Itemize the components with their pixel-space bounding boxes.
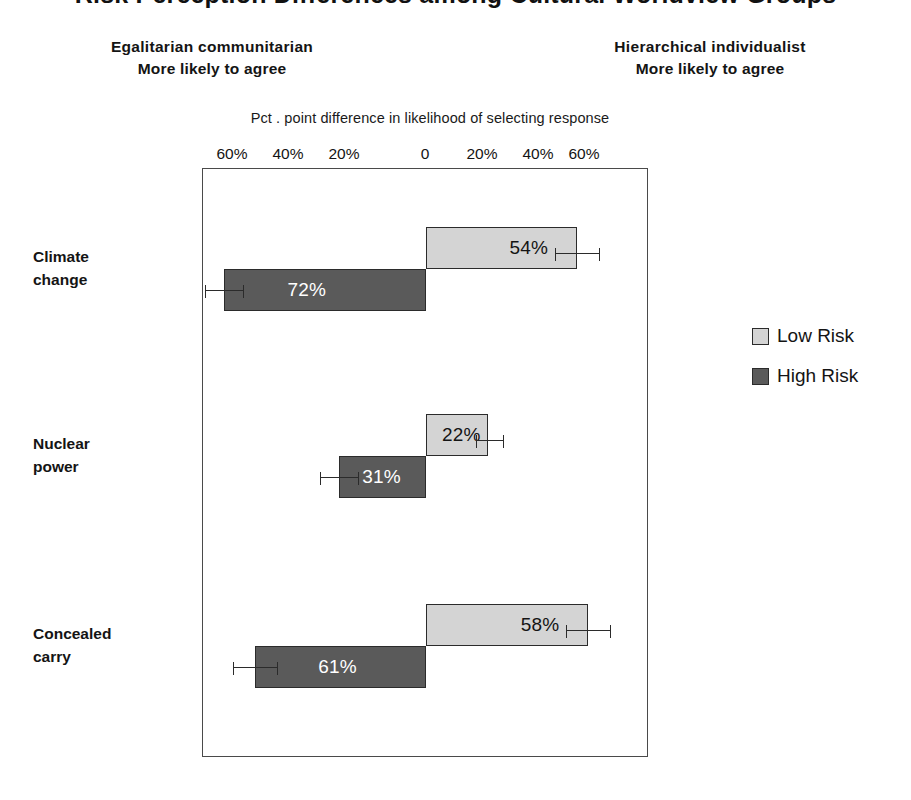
error-bar-high-risk-2 [320,477,359,478]
error-cap-left [320,472,321,485]
error-cap-left [205,285,206,298]
error-bar-low-risk-1 [555,253,600,254]
bar-value-label: 58% [521,614,560,636]
right-pole-line2: More likely to agree [520,58,900,80]
error-cap-left [566,625,567,638]
legend-swatch-icon [752,368,769,385]
x-tick-label-0: 60% [216,145,247,163]
x-tick-label-1: 40% [272,145,303,163]
error-cap-left [476,435,477,448]
x-tick-label-5: 40% [522,145,553,163]
chart-title-text: Risk Perception Differences among Cultur… [0,0,911,9]
legend-item-low-risk[interactable]: Low Risk [752,316,902,356]
category-label-line2: power [33,455,198,478]
bar-high-risk-1: 72% [224,269,426,311]
error-bar-low-risk-2 [476,440,504,441]
bar-value-label: 61% [318,656,357,678]
error-cap-right [599,248,600,261]
error-bar-high-risk-1 [205,290,244,291]
error-cap-right [243,285,244,298]
bar-value-label: 22% [442,424,481,446]
bar-low-risk-3: 58% [426,604,588,646]
category-label-2: Nuclearpower [33,432,198,478]
error-bar-low-risk-3 [566,630,611,631]
bar-low-risk-2: 22% [426,414,488,456]
category-label-line2: change [33,268,198,291]
bar-value-label: 72% [287,279,326,301]
x-tick-label-4: 20% [466,145,497,163]
category-label-line1: Climate [33,245,198,268]
bar-high-risk-3: 61% [255,646,426,688]
x-tick-label-2: 20% [328,145,359,163]
error-cap-right [277,662,278,675]
right-pole-line1: Hierarchical individualist [520,36,900,58]
plot-area: 54%72%22%31%58%61% [202,168,648,757]
legend-swatch-icon [752,328,769,345]
error-cap-right [610,625,611,638]
category-label-line2: carry [33,645,198,668]
legend: Low RiskHigh Risk [752,316,902,396]
x-axis-tick-labels: 60%40%20%020%40%60% [0,145,911,167]
left-pole-label: Egalitarian communitarian More likely to… [22,36,402,80]
legend-item-high-risk[interactable]: High Risk [752,356,902,396]
error-cap-left [233,662,234,675]
x-axis-caption: Pct . point difference in likelihood of … [140,110,720,126]
error-bar-high-risk-3 [233,667,278,668]
category-label-line1: Concealed [33,622,198,645]
category-label-line1: Nuclear [33,432,198,455]
x-tick-label-6: 60% [568,145,599,163]
right-pole-label: Hierarchical individualist More likely t… [520,36,900,80]
error-cap-right [358,472,359,485]
bar-value-label: 31% [362,466,401,488]
left-pole-line1: Egalitarian communitarian [22,36,402,58]
category-label-1: Climatechange [33,245,198,291]
chart-title-clipped: Risk Perception Differences among Cultur… [0,0,911,11]
error-cap-left [555,248,556,261]
left-pole-line2: More likely to agree [22,58,402,80]
bar-value-label: 54% [510,237,549,259]
error-cap-right [503,435,504,448]
category-label-3: Concealedcarry [33,622,198,668]
legend-item-label: High Risk [777,365,858,387]
x-tick-label-3: 0 [421,145,430,163]
legend-item-label: Low Risk [777,325,854,347]
